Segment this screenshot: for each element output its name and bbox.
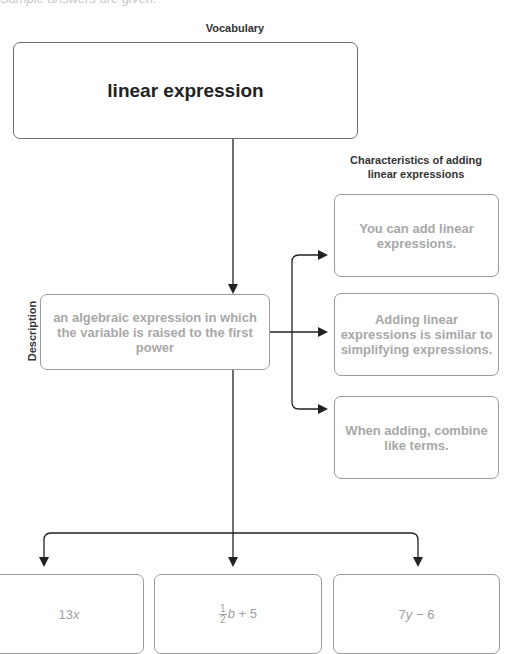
connector-lines bbox=[0, 0, 506, 649]
